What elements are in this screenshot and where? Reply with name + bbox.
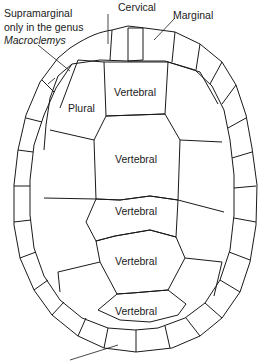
- pleural-divider: [178, 200, 224, 212]
- carapace-diagram: Cervical Marginal Supramarginal only in …: [0, 0, 264, 362]
- pleural-divider: [60, 60, 104, 108]
- marginal-divider: [196, 44, 200, 70]
- label-vertebral-3: Vertebral: [115, 205, 157, 217]
- marginal-divider: [18, 150, 33, 152]
- label-vertebral-2: Vertebral: [115, 153, 157, 165]
- marginal-divider: [165, 326, 170, 348]
- pleural-divider: [44, 198, 96, 199]
- carapace-outer-edge: [14, 26, 257, 352]
- label-vertebral-5: Vertebral: [115, 305, 157, 317]
- marginal-divider: [232, 152, 252, 158]
- marginal-divider: [234, 186, 256, 188]
- pleural-divider: [58, 262, 100, 292]
- marginal-divider: [42, 80, 54, 92]
- marginal-divider: [228, 118, 246, 128]
- marginal-divider: [110, 30, 112, 60]
- label-plural: Plural: [68, 102, 95, 114]
- marginal-divider: [205, 303, 222, 318]
- marginal-divider: [229, 252, 250, 260]
- label-marginal: Marginal: [173, 9, 213, 21]
- marginal-inner-ring: [30, 60, 234, 330]
- leader-line-marginal: [154, 18, 175, 40]
- marginal-divider: [186, 318, 200, 336]
- pleural-divider: [50, 130, 94, 140]
- leader-line-plural: [48, 78, 55, 84]
- marginal-divider: [222, 85, 236, 104]
- marginal-divider: [172, 32, 175, 62]
- marginal-divider: [210, 62, 222, 84]
- marginal-divider: [34, 280, 48, 290]
- marginal-divider: [26, 118, 42, 122]
- label-cervical: Cervical: [118, 1, 156, 13]
- leader-line-supramarginal: [38, 45, 70, 71]
- label-supramarginal-line2: only in the genus: [4, 21, 83, 33]
- label-supramarginal-line1: Supramarginal: [4, 7, 72, 19]
- marginal-divider: [20, 252, 36, 258]
- marginal-divider: [78, 318, 86, 336]
- marginal-divider: [52, 302, 64, 315]
- label-supramarginal-genus: Macroclemys: [4, 34, 66, 46]
- label-vertebral-1: Vertebral: [114, 86, 156, 98]
- leader-line-bottom: [70, 345, 118, 360]
- marginal-divider: [234, 218, 256, 222]
- marginal-divider: [14, 220, 31, 222]
- cervical-scute: [128, 28, 143, 61]
- label-vertebral-4: Vertebral: [115, 255, 157, 267]
- marginal-divider: [220, 280, 240, 292]
- pleural-divider: [180, 140, 222, 142]
- marginal-divider: [104, 328, 108, 348]
- pleural-divider: [185, 258, 222, 296]
